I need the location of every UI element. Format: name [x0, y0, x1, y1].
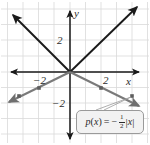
point-neg2-neg1	[37, 86, 41, 90]
x-tick-label-neg2: −2	[33, 75, 46, 86]
equation-equals-sign: =	[104, 117, 110, 127]
equation-minus-sign: −	[111, 117, 117, 127]
y-tick-label-2: 2	[57, 35, 63, 46]
equation-close-paren: )	[98, 117, 101, 127]
parent-right-branch	[70, 7, 137, 72]
x-tick-label-2: 2	[103, 75, 109, 86]
equation-fraction: 1 2	[119, 114, 125, 130]
y-axis-label: y	[74, 8, 79, 19]
y-tick-label-neg2: −2	[52, 98, 65, 109]
absolute-value-graph-figure: −2 2 2 −2 y x p(x) = − 1 2 |x|	[0, 0, 150, 145]
point-neg4-neg2	[17, 94, 21, 98]
fraction-denominator: 2	[119, 122, 125, 130]
abs-close-bar: |	[132, 117, 134, 128]
x-axis-label: x	[126, 76, 131, 87]
point-2-neg1	[99, 86, 103, 90]
equation-text: p(x) = − 1 2 |x|	[86, 114, 135, 130]
fraction-numerator: 1	[119, 114, 125, 121]
equation-callout-box: p(x) = − 1 2 |x|	[76, 110, 144, 134]
